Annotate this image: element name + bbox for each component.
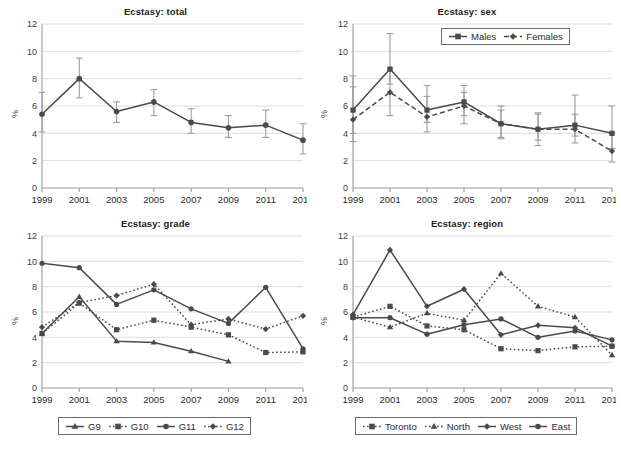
svg-text:2005: 2005	[143, 394, 164, 405]
svg-text:4: 4	[343, 129, 348, 139]
panel-total-ylabel: %	[10, 104, 20, 118]
legend-swatch-females	[503, 31, 523, 42]
legend-swatch-east	[528, 421, 548, 432]
legend-grade-label-g11: G11	[179, 421, 196, 432]
svg-text:10: 10	[338, 47, 348, 57]
panel-sex-ylabel: %	[319, 104, 329, 118]
svg-text:2001: 2001	[379, 394, 400, 405]
panel-region-ylabel: %	[319, 311, 329, 325]
svg-text:12: 12	[27, 232, 37, 241]
svg-text:2: 2	[343, 156, 348, 166]
legend-grade-item-g12[interactable]: G12	[203, 421, 244, 432]
svg-text:2009: 2009	[527, 194, 548, 205]
svg-text:10: 10	[338, 257, 348, 267]
panel-grade-plot: 0246810121999200120032005200720092011201…	[22, 232, 307, 410]
svg-text:2009: 2009	[527, 394, 548, 405]
svg-text:8: 8	[32, 74, 37, 84]
svg-text:2011: 2011	[255, 394, 275, 405]
legend-swatch-toronto	[362, 421, 382, 432]
svg-text:1999: 1999	[342, 194, 363, 205]
legend-swatch-g12	[203, 421, 223, 432]
legend-region-label-east: East	[551, 421, 570, 432]
svg-text:8: 8	[32, 282, 37, 292]
svg-text:2009: 2009	[218, 394, 239, 405]
svg-text:6: 6	[343, 101, 348, 111]
svg-text:12: 12	[27, 20, 37, 29]
svg-text:1999: 1999	[31, 394, 52, 405]
svg-text:12: 12	[338, 20, 348, 29]
svg-text:2003: 2003	[106, 194, 127, 205]
legend-region-item-north[interactable]: North	[424, 421, 470, 432]
svg-text:2005: 2005	[453, 194, 474, 205]
svg-text:0: 0	[32, 383, 37, 393]
svg-text:2003: 2003	[106, 394, 127, 405]
legend-sex-item-males[interactable]: Males	[448, 31, 496, 42]
legend-region[interactable]: TorontoNorthWestEast	[355, 417, 577, 435]
svg-text:6: 6	[32, 307, 37, 317]
legend-swatch-west	[477, 421, 497, 432]
svg-text:2: 2	[32, 358, 37, 368]
svg-text:2001: 2001	[69, 194, 90, 205]
legend-swatch-g9	[65, 421, 85, 432]
legend-region-item-west[interactable]: West	[477, 421, 521, 432]
svg-text:4: 4	[32, 333, 37, 343]
legend-swatch-males	[448, 31, 468, 42]
figure-grid: Ecstasy: total % 02468101219992001200320…	[0, 0, 623, 455]
legend-sex-label-females: Females	[526, 31, 562, 42]
svg-text:2005: 2005	[143, 194, 164, 205]
panel-sex: Ecstasy: sex % 0246810121999200120032005…	[311, 6, 623, 211]
legend-grade-label-g12: G12	[226, 421, 244, 432]
svg-text:2011: 2011	[565, 394, 585, 405]
svg-text:2013: 2013	[292, 394, 307, 405]
panel-grade-ylabel: %	[10, 311, 20, 325]
legend-grade[interactable]: G9G10G11G12	[58, 417, 251, 435]
legend-sex[interactable]: MalesFemales	[441, 28, 570, 45]
svg-text:2005: 2005	[453, 394, 474, 405]
svg-text:6: 6	[343, 307, 348, 317]
svg-text:2009: 2009	[218, 194, 239, 205]
panel-total-plot: 0246810121999200120032005200720092011201…	[22, 20, 307, 210]
svg-text:2001: 2001	[69, 394, 90, 405]
panel-total-title: Ecstasy: total	[0, 6, 311, 17]
svg-text:0: 0	[32, 183, 37, 193]
legend-grade-item-g11[interactable]: G11	[156, 421, 196, 432]
legend-region-item-east[interactable]: East	[528, 421, 570, 432]
panel-region-plot: 0246810121999200120032005200720092011201…	[333, 232, 616, 410]
svg-text:0: 0	[343, 183, 348, 193]
svg-text:12: 12	[338, 232, 348, 241]
legend-swatch-north	[424, 421, 444, 432]
legend-sex-label-males: Males	[471, 31, 496, 42]
legend-grade-item-g9[interactable]: G9	[65, 421, 101, 432]
svg-text:8: 8	[343, 74, 348, 84]
svg-text:1999: 1999	[31, 194, 52, 205]
svg-text:10: 10	[27, 47, 37, 57]
svg-text:0: 0	[343, 383, 348, 393]
svg-text:6: 6	[32, 101, 37, 111]
panel-total: Ecstasy: total % 02468101219992001200320…	[0, 6, 311, 211]
panel-grade: Ecstasy: grade % 02468101219992001200320…	[0, 218, 311, 455]
legend-grade-label-g10: G10	[131, 421, 149, 432]
panel-region-title: Ecstasy: region	[311, 218, 623, 229]
svg-text:2: 2	[32, 156, 37, 166]
panel-region: Ecstasy: region % 0246810121999200120032…	[311, 218, 623, 455]
legend-region-label-north: North	[447, 421, 470, 432]
legend-region-label-toronto: Toronto	[385, 421, 417, 432]
legend-swatch-g11	[156, 421, 176, 432]
legend-grade-item-g10[interactable]: G10	[108, 421, 149, 432]
svg-text:2001: 2001	[379, 194, 400, 205]
svg-text:2007: 2007	[490, 194, 511, 205]
svg-text:2003: 2003	[416, 194, 437, 205]
svg-text:8: 8	[343, 282, 348, 292]
legend-region-item-toronto[interactable]: Toronto	[362, 421, 417, 432]
svg-text:2003: 2003	[416, 394, 437, 405]
svg-text:4: 4	[343, 333, 348, 343]
legend-region-label-west: West	[500, 421, 521, 432]
legend-swatch-g10	[108, 421, 128, 432]
svg-text:2007: 2007	[490, 394, 511, 405]
svg-text:1999: 1999	[342, 394, 363, 405]
svg-text:2013: 2013	[601, 394, 616, 405]
legend-sex-item-females[interactable]: Females	[503, 31, 562, 42]
svg-text:2013: 2013	[601, 194, 616, 205]
svg-text:2007: 2007	[181, 394, 202, 405]
svg-text:4: 4	[32, 129, 37, 139]
